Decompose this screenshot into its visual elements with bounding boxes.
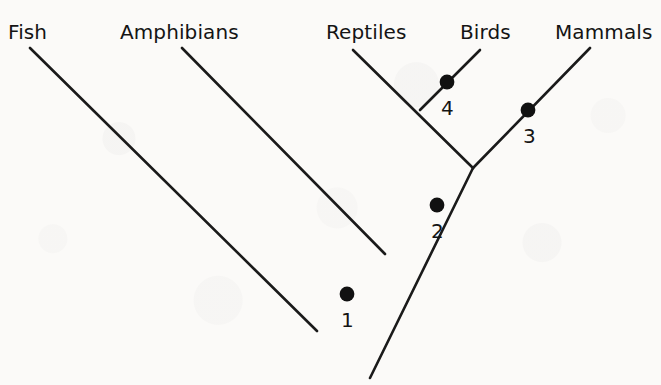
branch-line-trunk-root — [370, 168, 473, 378]
node-marker-1[interactable] — [340, 287, 355, 302]
node-marker-2[interactable] — [430, 198, 445, 213]
node-number-2: 2 — [431, 219, 444, 243]
taxon-label-amphibians: Amphibians — [120, 20, 239, 44]
node-number-1: 1 — [341, 308, 354, 332]
branch-layer — [30, 48, 590, 378]
branch-line-amphibians-branch — [182, 48, 385, 254]
node-number-4: 4 — [441, 96, 454, 120]
node-number-3: 3 — [523, 124, 536, 148]
cladogram-diagram: FishAmphibiansReptilesBirdsMammals 1234 — [0, 0, 661, 385]
taxon-label-reptiles: Reptiles — [326, 20, 406, 44]
branch-line-fish-branch — [30, 48, 317, 331]
branch-line-reptiles-branch — [353, 50, 473, 168]
taxon-label-mammals: Mammals — [555, 20, 652, 44]
node-marker-3[interactable] — [521, 103, 536, 118]
node-marker-layer — [340, 75, 536, 302]
phylogenetic-tree-lines — [0, 0, 661, 385]
taxon-label-fish: Fish — [8, 20, 47, 44]
node-marker-4[interactable] — [440, 75, 455, 90]
taxon-label-birds: Birds — [460, 20, 511, 44]
